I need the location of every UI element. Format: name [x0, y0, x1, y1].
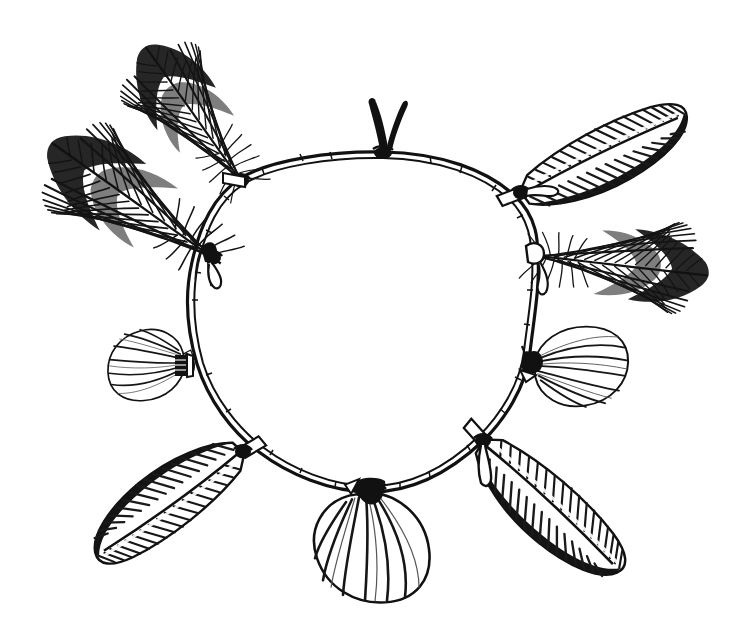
feather-necklace-drawing	[0, 0, 734, 622]
illustration-canvas	[0, 0, 734, 622]
knot-left-fan	[175, 354, 193, 377]
